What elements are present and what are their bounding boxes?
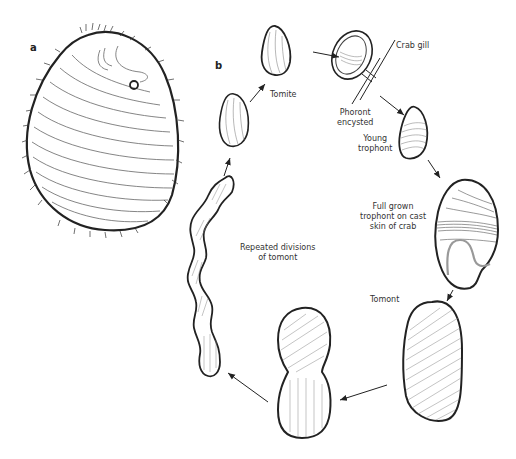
label-young-trophont-line2: trophont — [358, 144, 392, 154]
full-grown-trophont-drawing — [435, 180, 498, 289]
tomite-drawing — [262, 26, 291, 75]
ciliate-a-drawing — [22, 23, 184, 238]
dividing-tomont-drawing — [278, 308, 331, 438]
label-crab-gill: Crab gill — [396, 41, 429, 51]
tomite-left-drawing — [219, 94, 248, 147]
label-phoront-line2: encysted — [337, 118, 373, 128]
label-tomont: Tomont — [370, 295, 399, 305]
life-cycle-figure: a b Tomite Phoront encysted Crab gill Yo… — [0, 0, 516, 459]
label-phoront-encysted: Phoront encysted — [337, 108, 373, 128]
label-repeated-divisions: Repeated divisions of tomont — [240, 243, 315, 263]
label-phoront-line1: Phoront — [337, 108, 373, 118]
label-divisions-line2: of tomont — [240, 253, 315, 263]
label-young-trophont: Young trophont — [358, 134, 392, 154]
label-young-trophont-line1: Young — [358, 134, 392, 144]
panel-letter-a: a — [30, 42, 37, 53]
panel-letter-b: b — [215, 60, 222, 71]
label-full-grown-line2: trophont on cast — [360, 212, 426, 222]
label-divisions-line1: Repeated divisions — [240, 243, 315, 253]
division-chain-drawing — [188, 176, 234, 376]
tomont-drawing — [403, 301, 462, 420]
label-tomite: Tomite — [270, 90, 297, 100]
phoront-drawing — [324, 24, 395, 104]
figure-illustration — [0, 0, 516, 459]
label-full-grown-line1: Full grown — [360, 202, 426, 212]
label-full-grown-trophont: Full grown trophont on cast skin of crab — [360, 202, 426, 232]
label-full-grown-line3: skin of crab — [360, 222, 426, 232]
